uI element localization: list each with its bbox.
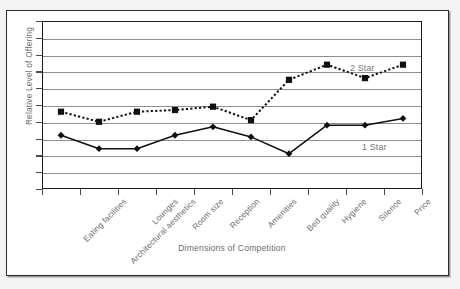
y-axis-tick bbox=[36, 189, 42, 190]
y-axis-tick bbox=[36, 21, 42, 22]
x-axis-title: Dimensions of Competition bbox=[42, 243, 422, 253]
x-axis-tick bbox=[270, 189, 271, 195]
x-axis-tick bbox=[384, 189, 385, 195]
data-point-diamond bbox=[96, 145, 103, 152]
series-line bbox=[61, 118, 403, 153]
data-point-square bbox=[400, 62, 406, 68]
data-point-square bbox=[96, 119, 102, 125]
series-1-star bbox=[58, 115, 407, 157]
series-label-two-star: 2 Star bbox=[350, 63, 375, 73]
data-point-diamond bbox=[400, 115, 407, 122]
category-label-text: Amenities bbox=[266, 197, 299, 230]
y-axis-tick bbox=[36, 88, 42, 89]
x-axis-tick bbox=[422, 189, 423, 195]
y-axis-tick bbox=[36, 172, 42, 173]
x-axis-ticks bbox=[42, 189, 422, 196]
y-axis-tick bbox=[36, 55, 42, 56]
figure-frame: 2 Star 1 Star Eating facilitiesArchitect… bbox=[6, 10, 449, 276]
data-point-square bbox=[286, 77, 292, 83]
series-layer bbox=[42, 21, 422, 189]
data-point-diamond bbox=[362, 122, 369, 129]
data-point-diamond bbox=[134, 145, 141, 152]
x-axis-category-label: Amenities bbox=[266, 197, 299, 230]
data-point-square bbox=[362, 75, 368, 81]
x-axis-tick bbox=[232, 189, 233, 195]
category-label-text: Bed quality bbox=[305, 197, 341, 233]
data-point-square bbox=[210, 104, 216, 110]
x-axis-tick bbox=[42, 189, 43, 195]
x-axis-category-labels: Eating facilitiesArchitectural aesthetic… bbox=[42, 197, 422, 243]
line-chart: 2 Star 1 Star Eating facilitiesArchitect… bbox=[7, 11, 450, 277]
y-axis-ticks bbox=[36, 21, 43, 189]
category-label-text: Reception bbox=[228, 197, 261, 230]
x-axis-category-label: Bed quality bbox=[305, 197, 341, 233]
x-axis-category-label: Price bbox=[413, 197, 433, 217]
y-axis-tick bbox=[36, 155, 42, 156]
data-point-diamond bbox=[248, 134, 255, 141]
data-point-square bbox=[58, 109, 64, 115]
x-axis-category-label: Silence bbox=[377, 197, 403, 223]
data-point-square bbox=[324, 62, 330, 68]
figure-root: 2 Star 1 Star Eating facilitiesArchitect… bbox=[0, 0, 460, 289]
y-axis-tick bbox=[36, 38, 42, 39]
data-point-diamond bbox=[172, 132, 179, 139]
data-point-diamond bbox=[58, 132, 65, 139]
x-axis-tick bbox=[194, 189, 195, 195]
data-point-square bbox=[134, 109, 140, 115]
x-axis-tick bbox=[156, 189, 157, 195]
series-line bbox=[61, 65, 403, 122]
y-axis-tick bbox=[36, 105, 42, 106]
y-axis-tick bbox=[36, 71, 42, 72]
x-axis-category-label: Hygiene bbox=[340, 197, 368, 225]
category-label-text: Eating facilities bbox=[82, 197, 129, 244]
data-point-square bbox=[248, 117, 254, 123]
y-axis-tick bbox=[36, 122, 42, 123]
data-point-diamond bbox=[210, 123, 217, 130]
x-axis-tick bbox=[118, 189, 119, 195]
category-label-text: Silence bbox=[377, 197, 403, 223]
x-axis-category-label: Eating facilities bbox=[82, 197, 129, 244]
category-label-text: Hygiene bbox=[340, 197, 368, 225]
x-axis-category-label: Reception bbox=[228, 197, 261, 230]
data-point-square bbox=[172, 107, 178, 113]
category-label-text: Price bbox=[413, 197, 433, 217]
x-axis-tick bbox=[308, 189, 309, 195]
x-axis-tick bbox=[80, 189, 81, 195]
y-axis-tick bbox=[36, 139, 42, 140]
x-axis-tick bbox=[346, 189, 347, 195]
y-axis-title: Relative Level of Offering bbox=[24, 6, 34, 146]
series-label-one-star: 1 Star bbox=[362, 142, 387, 152]
